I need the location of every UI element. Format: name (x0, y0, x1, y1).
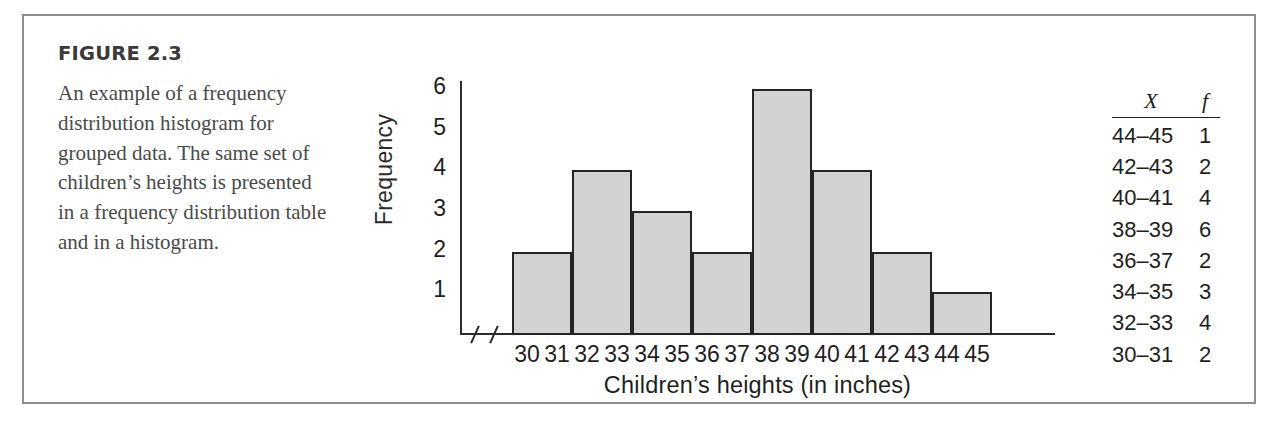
histogram-bar (632, 211, 692, 335)
table-row: 30–312 (1112, 339, 1220, 370)
figure-number-label: FIGURE 2.3 (58, 42, 330, 65)
table-row: 38–396 (1112, 214, 1220, 245)
table-body: 44–45142–43240–41438–39636–37234–35332–3… (1112, 118, 1220, 370)
histogram-bar (512, 252, 572, 335)
table-row: 40–414 (1112, 182, 1220, 213)
table-header-row: X f (1112, 88, 1220, 118)
table-cell-interval: 38–39 (1112, 214, 1190, 245)
figure-caption-text: An example of a frequency distribution h… (58, 79, 330, 258)
freq-table-element: X f 44–45142–43240–41438–39636–37234–353… (1112, 88, 1220, 370)
table-row: 32–334 (1112, 307, 1220, 338)
table-cell-frequency: 4 (1190, 182, 1220, 213)
table-cell-frequency: 2 (1190, 151, 1220, 182)
histogram-bar (812, 170, 872, 335)
table-header-x: X (1112, 88, 1190, 118)
table-cell-frequency: 6 (1190, 214, 1220, 245)
table-row: 44–451 (1112, 118, 1220, 152)
table-row: 36–372 (1112, 245, 1220, 276)
table-row: 42–432 (1112, 151, 1220, 182)
table-cell-interval: 44–45 (1112, 118, 1190, 152)
figure-caption-block: FIGURE 2.3 An example of a frequency dis… (58, 42, 330, 258)
table-cell-interval: 34–35 (1112, 276, 1190, 307)
histogram-bar (692, 252, 752, 335)
figure-container: FIGURE 2.3 An example of a frequency dis… (22, 14, 1256, 404)
table-cell-frequency: 1 (1190, 118, 1220, 152)
histogram-bar (872, 252, 932, 335)
table-cell-interval: 36–37 (1112, 245, 1190, 276)
table-cell-interval: 30–31 (1112, 339, 1190, 370)
table-row: 34–353 (1112, 276, 1220, 307)
table-cell-interval: 40–41 (1112, 182, 1190, 213)
table-cell-interval: 32–33 (1112, 307, 1190, 338)
histogram-bar (752, 89, 812, 335)
table-cell-frequency: 4 (1190, 307, 1220, 338)
table-cell-interval: 42–43 (1112, 151, 1190, 182)
table-cell-frequency: 2 (1190, 245, 1220, 276)
frequency-distribution-table: X f 44–45142–43240–41438–39636–37234–353… (1112, 88, 1232, 370)
plot-area: Frequency 123456 30313233343536373839404… (354, 36, 1094, 396)
x-tick-label: 45 (957, 341, 997, 368)
histogram-bar (932, 292, 992, 335)
histogram-bar (572, 170, 632, 335)
x-axis-title: Children’s heights (in inches) (460, 372, 1055, 399)
histogram-chart: Frequency 123456 30313233343536373839404… (354, 36, 1094, 396)
table-header-f: f (1190, 88, 1220, 118)
table-cell-frequency: 2 (1190, 339, 1220, 370)
table-cell-frequency: 3 (1190, 276, 1220, 307)
